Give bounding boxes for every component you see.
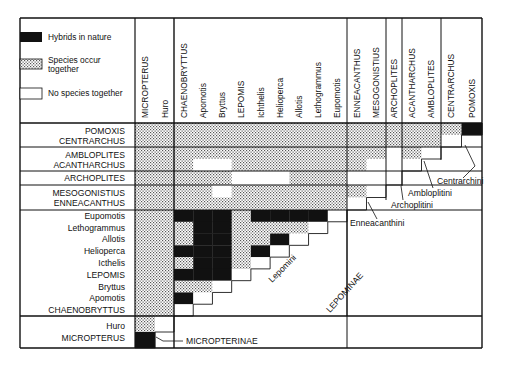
row-label: AMBLOPLITES bbox=[65, 150, 125, 160]
row-label: Lethogrammus bbox=[68, 223, 125, 233]
row-label: MICROPTERUS bbox=[61, 333, 125, 343]
matrix-cell bbox=[155, 234, 174, 246]
legend-label-hybrid: Hybrids in nature bbox=[48, 32, 112, 42]
matrix-cell bbox=[309, 210, 329, 222]
matrix-cell bbox=[309, 171, 329, 185]
matrix-cell bbox=[212, 159, 232, 171]
matrix-cell bbox=[174, 234, 194, 246]
matrix-cell bbox=[174, 185, 194, 198]
matrix-cell bbox=[135, 185, 155, 198]
matrix-cell bbox=[135, 234, 155, 246]
matrix-cell bbox=[174, 171, 194, 185]
row-label: MESOGONISTIUS bbox=[52, 188, 125, 198]
matrix-cell bbox=[270, 185, 290, 198]
column-header: AMBLOPLITES bbox=[426, 59, 436, 118]
matrix-cell bbox=[232, 210, 252, 222]
column-header: Allotis bbox=[294, 96, 304, 118]
legend-swatch-none bbox=[20, 88, 42, 99]
matrix-cell bbox=[135, 304, 155, 316]
legend-swatch-hybrid bbox=[20, 32, 42, 42]
matrix-cell bbox=[402, 123, 422, 135]
column-header: CHAENOBRYTTUS bbox=[179, 43, 189, 118]
matrix-cell bbox=[270, 198, 290, 211]
matrix-cell bbox=[309, 135, 329, 147]
matrix-cell bbox=[347, 147, 367, 159]
matrix-cell bbox=[193, 281, 213, 293]
arrow-archoplitini bbox=[401, 186, 403, 200]
matrix-cell bbox=[328, 135, 348, 147]
matrix-cell bbox=[251, 147, 271, 159]
matrix-cell bbox=[193, 135, 213, 147]
column-header: Helioperca bbox=[275, 78, 285, 118]
matrix-cell bbox=[155, 198, 174, 211]
matrix-cell bbox=[251, 171, 271, 185]
matrix-cell bbox=[289, 159, 309, 171]
matrix-cell bbox=[174, 135, 194, 147]
matrix-cell bbox=[402, 147, 422, 159]
label-micropterinae: MICROPTERINAE bbox=[186, 336, 258, 346]
matrix-cell bbox=[270, 123, 290, 135]
matrix-cell bbox=[232, 234, 252, 246]
matrix-cell bbox=[309, 222, 329, 234]
matrix-cell bbox=[347, 135, 367, 147]
matrix-cell bbox=[212, 257, 232, 269]
matrix-cell bbox=[212, 210, 232, 222]
matrix-cell bbox=[193, 123, 213, 135]
matrix-cell bbox=[386, 135, 402, 147]
matrix-cell bbox=[386, 171, 402, 185]
matrix-cell bbox=[135, 316, 155, 332]
matrix-cell bbox=[135, 245, 155, 257]
matrix-cell bbox=[212, 234, 232, 246]
matrix-cell bbox=[155, 316, 174, 332]
matrix-cell bbox=[251, 159, 271, 171]
matrix-cell bbox=[193, 147, 213, 159]
matrix-cell bbox=[212, 185, 232, 198]
matrix-cell bbox=[232, 159, 252, 171]
matrix-cell bbox=[174, 198, 194, 211]
matrix-cell bbox=[386, 147, 402, 159]
matrix-cell bbox=[289, 185, 309, 198]
matrix-cell bbox=[212, 198, 232, 211]
column-header: Eupomotis bbox=[332, 78, 342, 118]
matrix-cell bbox=[174, 257, 194, 269]
matrix-cell bbox=[232, 257, 252, 269]
matrix-cell bbox=[135, 281, 155, 293]
matrix-cell bbox=[328, 198, 348, 211]
matrix-cell bbox=[155, 292, 174, 304]
row-label: Bryttus bbox=[98, 282, 125, 292]
column-header: Lethogrammus bbox=[313, 62, 323, 118]
matrix-cell bbox=[232, 185, 252, 198]
row-label: Huro bbox=[106, 321, 125, 331]
matrix-cell bbox=[135, 159, 155, 171]
matrix-cell bbox=[155, 185, 174, 198]
matrix-cell bbox=[251, 245, 271, 257]
matrix-cell bbox=[270, 222, 290, 234]
matrix-cell bbox=[289, 147, 309, 159]
matrix-cell bbox=[174, 210, 194, 222]
matrix-cell bbox=[155, 304, 174, 316]
matrix-cell bbox=[232, 171, 252, 185]
row-label: ENNEACANTHUS bbox=[54, 198, 125, 208]
matrix-cell bbox=[193, 234, 213, 246]
matrix-cell bbox=[193, 159, 213, 171]
matrix-cell bbox=[135, 292, 155, 304]
matrix-cell bbox=[441, 135, 462, 147]
matrix-cell bbox=[309, 185, 329, 198]
matrix-cell bbox=[367, 171, 387, 185]
matrix-cell bbox=[174, 292, 194, 304]
matrix-cell bbox=[289, 171, 309, 185]
column-header: Bryttus bbox=[217, 92, 227, 118]
matrix-cell bbox=[212, 171, 232, 185]
matrix-cell bbox=[193, 269, 213, 281]
matrix-cell bbox=[386, 123, 402, 135]
matrix-cell bbox=[174, 245, 194, 257]
column-header: Huro bbox=[160, 100, 170, 118]
column-header: CENTRARCHUS bbox=[446, 53, 456, 118]
matrix-cell bbox=[270, 135, 290, 147]
matrix-cell bbox=[193, 198, 213, 211]
row-label: Apomotis bbox=[89, 293, 125, 303]
arrow-centrarchini bbox=[463, 145, 475, 178]
matrix-cell bbox=[193, 185, 213, 198]
row-label: Allotis bbox=[102, 234, 125, 244]
matrix-cell bbox=[212, 269, 232, 281]
